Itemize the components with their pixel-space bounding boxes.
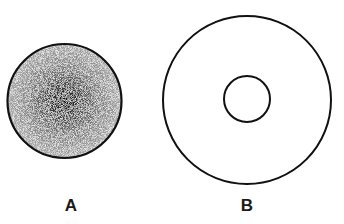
label-b: B [241,196,253,216]
figure-a-stippled-disc [8,44,122,158]
label-a: A [65,196,77,216]
diagram-canvas [0,0,344,224]
figure-b-concentric-rings [163,16,331,184]
